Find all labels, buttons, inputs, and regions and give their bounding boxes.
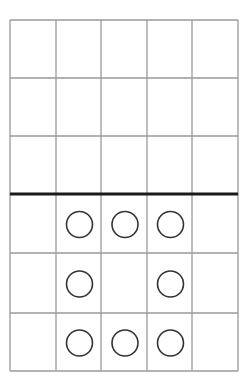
circles-group xyxy=(67,212,184,357)
circle-marker xyxy=(67,271,93,297)
grid-diagram xyxy=(0,0,247,383)
circle-marker xyxy=(112,212,138,238)
grid-canvas xyxy=(0,0,247,383)
circle-marker xyxy=(67,212,93,238)
circle-marker xyxy=(112,330,138,356)
circle-marker xyxy=(158,212,184,238)
circle-marker xyxy=(67,330,93,356)
circle-marker xyxy=(158,330,184,356)
circle-marker xyxy=(158,271,184,297)
